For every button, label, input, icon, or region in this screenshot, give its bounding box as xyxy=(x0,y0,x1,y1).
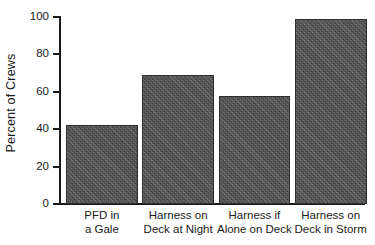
y-axis-tick xyxy=(53,203,60,205)
y-axis-tick-label: 40 xyxy=(9,123,49,135)
y-axis-title: Percent of Crews xyxy=(0,0,22,205)
bar xyxy=(66,125,138,204)
plot-area xyxy=(60,17,365,204)
y-axis-tick-label: 100 xyxy=(9,11,49,23)
x-axis-category-label-line: Harness on xyxy=(281,209,375,223)
x-axis-category-label-line: Deck in Storm xyxy=(281,223,375,237)
y-axis-tick-label: 60 xyxy=(9,86,49,98)
y-axis-tick-label: 20 xyxy=(9,161,49,173)
y-axis-tick xyxy=(53,128,60,130)
y-axis-title-text: Percent of Crews xyxy=(4,53,18,152)
bar-chart-figure: Percent of Crews 020406080100 PFD ina Ga… xyxy=(0,0,375,245)
bar xyxy=(295,19,367,204)
y-axis-tick xyxy=(53,16,60,18)
y-axis-tick xyxy=(53,166,60,168)
bar xyxy=(142,75,214,204)
y-axis-tick xyxy=(53,91,60,93)
y-axis-tick-label: 0 xyxy=(9,198,49,210)
x-axis-category-label: Harness onDeck in Storm xyxy=(281,209,375,236)
y-axis-tick-label: 80 xyxy=(9,48,49,60)
y-axis-tick xyxy=(53,53,60,55)
bar xyxy=(219,96,291,204)
